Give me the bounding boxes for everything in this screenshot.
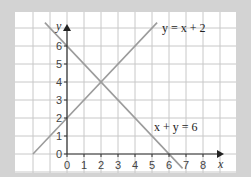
equation-label-y-equals-x-plus-2: y = x + 2 xyxy=(162,21,206,35)
x-tick-label: 7 xyxy=(183,159,189,171)
x-axis-label: x xyxy=(217,157,224,171)
y-axis-label: y xyxy=(55,19,62,33)
y-tick-label: 3 xyxy=(56,94,62,106)
x-tick-label: 5 xyxy=(149,159,155,171)
x-tick-label: 8 xyxy=(200,159,206,171)
x-tick-label: 0 xyxy=(64,159,70,171)
y-tick-label: 4 xyxy=(56,76,62,88)
x-tick-label: 4 xyxy=(132,159,138,171)
x-tick-label: 2 xyxy=(98,159,104,171)
y-tick-label: 1 xyxy=(56,130,62,142)
equation-label-x-plus-y-equals-6: x + y = 6 xyxy=(154,120,198,134)
y-tick-label: 2 xyxy=(56,112,62,124)
x-tick-label: 1 xyxy=(81,159,87,171)
y-tick-label: 5 xyxy=(56,58,62,70)
x-tick-label: 6 xyxy=(166,159,172,171)
linear-equations-graph: 0123456780123456 y x y = x + 2 x + y = 6 xyxy=(0,0,251,177)
y-tick-label: 0 xyxy=(56,148,62,160)
x-tick-label: 3 xyxy=(115,159,121,171)
y-tick-label: 6 xyxy=(56,40,62,52)
